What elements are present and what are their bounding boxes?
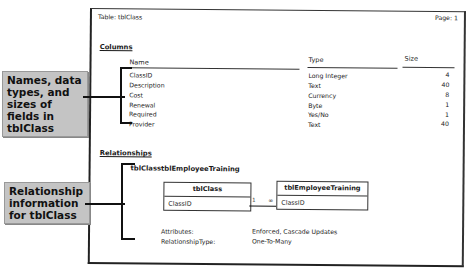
field-type: Text — [308, 121, 321, 128]
report-title: Table: tblClass — [98, 13, 142, 20]
callout-relationship: Relationship information for tblClass — [4, 182, 90, 224]
right-table-field: ClassID — [277, 196, 367, 210]
field-size: 40 — [429, 120, 449, 127]
field-type: Text — [308, 82, 321, 89]
field-name: Cost — [129, 91, 143, 98]
field-type: Byte — [308, 102, 322, 109]
cardinality-many: ∞ — [268, 197, 273, 204]
column-header-size: Size — [405, 55, 418, 63]
report-page: Table: tblClass Page: 1 Columns Name Typ… — [88, 8, 466, 267]
table-row: Cost Currency 8 — [92, 9, 464, 12]
table-row: Provider Text 40 — [92, 9, 464, 12]
field-size: 1 — [429, 111, 449, 118]
header-rule-name — [127, 67, 299, 70]
field-size: 8 — [429, 91, 449, 98]
columns-heading: Columns — [100, 43, 133, 51]
field-name: Renewal — [129, 101, 155, 108]
relationship-name: tblClasstblEmployeeTraining — [131, 164, 240, 173]
field-name: Provider — [129, 120, 155, 127]
callout-fields-bracket-top — [120, 67, 132, 69]
right-table-name: tblEmployeeTraining — [277, 182, 367, 197]
table-row: Renewal Byte 1 — [92, 9, 464, 12]
relationships-heading: Relationships — [100, 149, 152, 157]
field-type: Yes/No — [308, 111, 329, 118]
field-size: 40 — [429, 81, 449, 88]
header-rule-type — [307, 67, 397, 69]
callout-fields-connector — [83, 96, 125, 98]
left-table-name: tblClass — [164, 183, 250, 198]
page-number: Page: 1 — [435, 14, 458, 21]
callout-relationship-bracket — [121, 163, 123, 240]
field-name: ClassID — [129, 71, 152, 78]
table-row: ClassID Long Integer 4 — [92, 9, 464, 12]
callout-relationship-bracket-top — [121, 163, 135, 165]
column-header-name: Name — [129, 58, 148, 66]
column-header-type: Type — [309, 56, 324, 64]
field-size: 1 — [429, 101, 449, 108]
left-table-box: tblClass ClassID — [163, 182, 251, 212]
field-size: 4 — [429, 71, 449, 78]
columns-table: ClassID Long Integer 4 Description Text … — [92, 9, 464, 12]
callout-relationship-connector — [85, 203, 125, 205]
callout-fields: Names, data types, and sizes of fields i… — [2, 71, 88, 137]
header-rule-size — [402, 67, 454, 68]
left-table-field: ClassID — [164, 197, 250, 211]
table-row: Required Yes/No 1 — [92, 9, 464, 12]
attributes-label: Attributes: — [161, 228, 194, 235]
relationship-type-value: One-To-Many — [252, 237, 292, 244]
attributes-value: Enforced, Cascade Updates — [252, 227, 337, 235]
field-type: Currency — [308, 92, 336, 99]
relationship-type-label: RelationshipType: — [161, 238, 215, 245]
callout-fields-bracket-bottom — [120, 122, 132, 124]
field-type: Long Integer — [308, 72, 347, 79]
field-name: Description — [129, 81, 164, 88]
relationship-line — [249, 205, 276, 206]
cardinality-one: 1 — [252, 196, 255, 202]
callout-fields-bracket — [120, 67, 122, 124]
table-row: Description Text 40 — [92, 9, 464, 12]
callout-relationship-bracket-bottom — [121, 238, 135, 240]
right-table-box: tblEmployeeTraining ClassID — [276, 181, 368, 211]
field-name: Required — [129, 110, 157, 117]
